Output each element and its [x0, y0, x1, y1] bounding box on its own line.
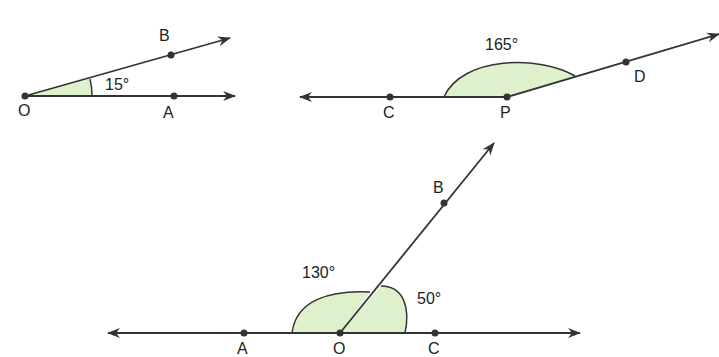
label-O-fig1: O	[18, 103, 30, 119]
label-A-fig1: A	[163, 105, 174, 121]
point-B	[168, 52, 175, 59]
label-B-fig3: B	[433, 180, 444, 196]
label-angle-130: 130°	[302, 265, 335, 281]
figure-linear-pair	[108, 143, 580, 337]
point-A	[171, 93, 178, 100]
label-angle-50: 50°	[417, 291, 441, 307]
label-A-fig3: A	[237, 341, 248, 357]
label-P-fig2: P	[500, 105, 511, 121]
point-O	[22, 93, 29, 100]
point-P	[504, 94, 511, 101]
point-C	[432, 330, 439, 337]
label-O-fig3: O	[333, 341, 345, 357]
diagram-svg	[0, 0, 719, 357]
point-O	[337, 330, 344, 337]
label-B-fig1: B	[159, 28, 170, 44]
label-angle-15: 15°	[105, 77, 129, 93]
label-C-fig3: C	[428, 341, 440, 357]
point-A	[241, 330, 248, 337]
label-D-fig2: D	[634, 69, 646, 85]
label-C-fig2: C	[383, 105, 395, 121]
point-C	[387, 94, 394, 101]
angles-diagram: B 15° O A 165° C P D B 130° 50° A O C	[0, 0, 719, 357]
label-angle-165: 165°	[485, 37, 518, 53]
point-D	[623, 59, 630, 66]
point-B	[441, 200, 448, 207]
